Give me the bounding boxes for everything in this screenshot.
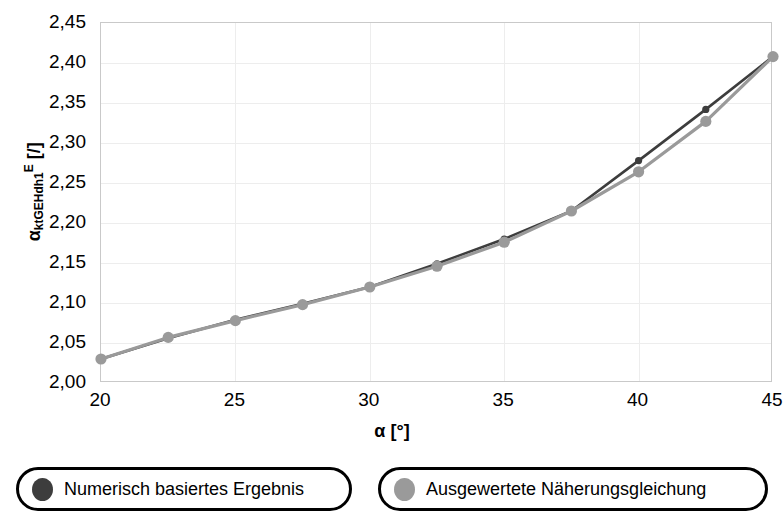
- x-axis-title-symbol: α: [374, 421, 385, 441]
- x-axis-tick-label: 25: [204, 390, 264, 409]
- chart-legend: Numerisch basiertes Ergebnis Ausgewertet…: [0, 462, 784, 520]
- legend-marker-icon: [32, 478, 53, 501]
- x-axis-title-unit: [°]: [390, 421, 409, 441]
- legend-marker-icon: [394, 478, 415, 501]
- chart-figure: 2,002,052,102,152,202,252,302,352,402,45…: [0, 0, 784, 526]
- x-axis-tick-label: 45: [742, 390, 784, 409]
- chart-plot-region: 2,002,052,102,152,202,252,302,352,402,45…: [0, 0, 784, 452]
- legend-item-naeherungsgleichung[interactable]: Ausgewertete Näherungsgleichung: [378, 467, 768, 511]
- x-axis-tick-label: 35: [473, 390, 533, 409]
- x-axis-tick-label: 20: [70, 390, 130, 409]
- legend-label: Ausgewertete Näherungsgleichung: [426, 479, 706, 499]
- legend-label: Numerisch basiertes Ergebnis: [64, 479, 304, 499]
- x-axis-tick-label: 40: [608, 390, 668, 409]
- legend-item-numerisch[interactable]: Numerisch basiertes Ergebnis: [16, 467, 352, 511]
- x-axis-tick-labels: 202530354045: [0, 0, 784, 452]
- x-axis-title: α [°]: [0, 421, 784, 442]
- x-axis-tick-label: 30: [339, 390, 399, 409]
